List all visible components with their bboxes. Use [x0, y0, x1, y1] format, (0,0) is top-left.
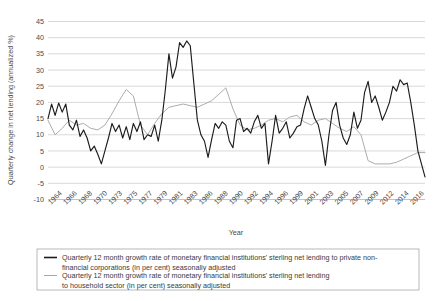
y-tick-label: -5 [38, 179, 44, 188]
plot-background [48, 22, 425, 200]
y-tick-label: 35 [36, 49, 44, 58]
y-tick-label: 45 [36, 17, 44, 26]
legend-entry-1-line-1: Quarterly 12 month growth rate of moneta… [62, 271, 329, 280]
x-axis-title: Year [229, 228, 244, 237]
y-tick-label: 5 [40, 147, 44, 156]
legend-entry-1-line-2: to household sector (in per cent) season… [62, 281, 230, 290]
y-tick-label: 20 [36, 98, 44, 107]
y-tick-label: 30 [36, 66, 44, 75]
legend: Quarterly 12 month growth rate of moneta… [37, 249, 419, 290]
y-axis-title: Quarterly change in net lending (annuali… [6, 35, 15, 185]
y-tick-label: 0 [40, 163, 44, 172]
y-tick-label: 10 [36, 130, 44, 139]
legend-entry-0-line-1: Quarterly 12 month growth rate of moneta… [62, 253, 378, 262]
y-tick-label: -10 [34, 195, 44, 204]
chart-figure: -10-5051015202530354045 1964196619681970… [0, 0, 448, 301]
y-tick-label: 25 [36, 82, 44, 91]
y-tick-labels: -10-5051015202530354045 [34, 17, 44, 204]
y-tick-label: 40 [36, 33, 44, 42]
y-tick-label: 15 [36, 114, 44, 123]
